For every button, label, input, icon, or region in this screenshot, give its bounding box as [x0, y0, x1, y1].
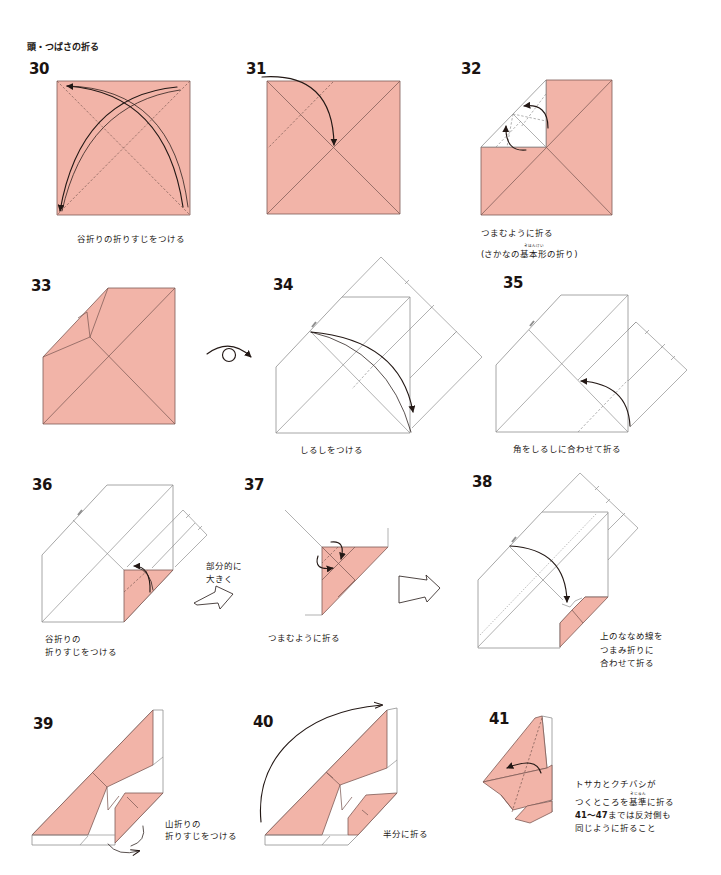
caption-step-34: しるしをつける — [300, 446, 363, 455]
step-number-30: 30 — [29, 62, 49, 77]
caption-step-38-line-3: 合わせて折る — [600, 659, 654, 668]
caption-text: の折り) — [547, 249, 577, 259]
step-number-36: 36 — [32, 478, 52, 493]
step-number-40: 40 — [253, 715, 273, 730]
caption-step-40: 半分に折る — [383, 830, 428, 839]
diagram-step-31 — [262, 77, 400, 214]
caption-step-35: 角をしるしに合わせて折る — [513, 445, 621, 454]
caption-step-41-line-1: トサカとクチバシが — [575, 780, 656, 789]
caption-text: に折る — [647, 797, 674, 807]
step-number-34: 34 — [273, 278, 293, 293]
enlarge-note-line-2: 大きく — [206, 575, 233, 584]
caption-step-32-line-2: (さかなのきほんけい基本形の折り) — [481, 250, 578, 259]
tick-mark — [186, 514, 190, 518]
instruction-artwork — [0, 0, 721, 875]
hollow-arrow-icon — [194, 586, 233, 609]
step-number-31: 31 — [246, 62, 266, 77]
step-number-32: 32 — [461, 62, 481, 77]
step-number-33: 33 — [31, 279, 51, 294]
caption-step-41-line-4: 同じように折ること — [575, 824, 656, 833]
step-number-37: 37 — [244, 478, 264, 493]
diagram-step-30 — [57, 81, 190, 215]
ruby-base: 基本形 — [520, 249, 547, 259]
caption-text: (さかなの — [481, 249, 520, 259]
reference-outline — [628, 322, 687, 427]
paper-edge — [285, 510, 322, 547]
ruby-reading: きじゅん — [626, 793, 650, 797]
ruby-reading: きほんけい — [517, 245, 550, 249]
ruby-word: きじゅん基準 — [629, 798, 647, 807]
ruby-base: 基準 — [629, 797, 647, 807]
caption-step-30: 谷折りの折りすじをつける — [77, 235, 185, 244]
caption-step-41-line-2: つくところをきじゅん基準に折る — [575, 798, 674, 807]
ruby-word: きほんけい基本形 — [520, 250, 547, 259]
caption-step-36-line-1: 谷折りの — [45, 635, 81, 644]
enlarge-note-line-1: 部分的に — [206, 562, 242, 571]
step-number-35: 35 — [503, 276, 523, 291]
step-number-38: 38 — [472, 475, 492, 490]
step-number-41: 41 — [489, 712, 509, 727]
guide-line — [608, 515, 623, 530]
diagram-step-37 — [285, 510, 388, 615]
diagram-step-41 — [483, 716, 552, 823]
diagram-step-40 — [260, 705, 397, 845]
diagram-step-32 — [481, 80, 612, 215]
diagram-step-38 — [478, 473, 638, 648]
caption-text: つくところを — [575, 797, 629, 807]
hollow-arrow-icon — [399, 575, 440, 603]
caption-step-32-line-1: つまむように折る — [481, 229, 553, 238]
tick-mark — [405, 280, 409, 284]
caption-step-41-line-3: 41〜47までは反対側も — [575, 811, 671, 820]
caption-step-37: つまむように折る — [268, 634, 340, 643]
turn-over-icon — [207, 346, 251, 361]
diagram-step-33 — [43, 288, 175, 424]
diagram-step-34 — [276, 257, 482, 433]
step-range: 41〜47 — [575, 810, 608, 820]
caption-step-38-line-1: 上のななめ線を — [600, 632, 663, 641]
folded-layer — [115, 793, 163, 843]
caption-step-39-line-1: 山折りの — [165, 820, 201, 829]
step-number-39: 39 — [33, 717, 53, 732]
diagram-step-35 — [496, 295, 687, 432]
reference-outline — [183, 510, 207, 535]
guide-line — [410, 333, 455, 378]
caption-step-36-line-2: 折りすじをつける — [45, 648, 117, 657]
guide-line — [628, 346, 663, 381]
caption-step-38-line-2: つまみ折りに — [600, 646, 654, 655]
diagram-step-36 — [42, 485, 207, 622]
section-title: 頭・つばさの折る — [27, 43, 99, 52]
caption-step-39-line-2: 折りすじをつける — [165, 832, 237, 841]
guide-line — [175, 535, 207, 567]
caption-text: までは反対側も — [608, 810, 671, 820]
